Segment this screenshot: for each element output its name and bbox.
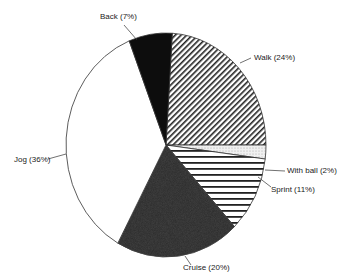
leader-back [124,25,137,40]
leader-jog [48,154,66,159]
label-sprint: Sprint (11%) [271,185,315,194]
leader-walk [240,58,251,63]
label-jog: Jog (36%) [14,155,50,164]
label-back: Back (7%) [100,12,137,21]
pie-slices [66,33,266,257]
label-walk: Walk (24%) [254,53,295,62]
label-cruise: Cruise (20%) [183,263,230,272]
label-with-ball: With ball (2%) [287,166,337,175]
slice-walk [166,33,266,145]
leader-with-ball [265,170,285,171]
